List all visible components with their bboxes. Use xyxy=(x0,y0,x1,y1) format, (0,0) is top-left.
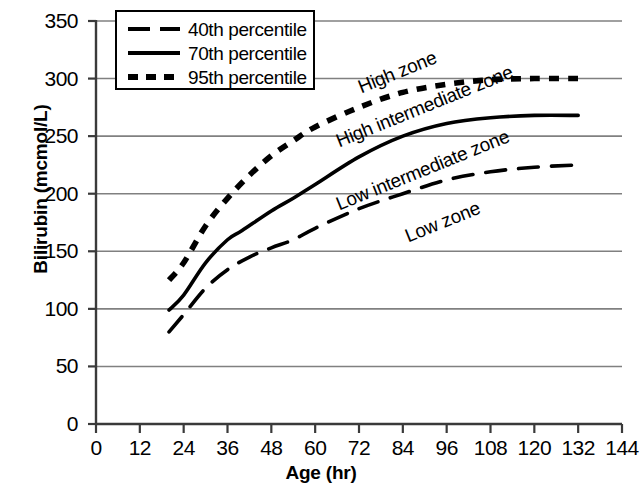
legend-swatch-dotted-icon xyxy=(126,70,182,84)
legend-swatch-dashed-icon xyxy=(126,22,182,36)
legend-item-70th: 70th percentile xyxy=(126,41,307,65)
plot-area xyxy=(0,0,642,487)
legend-item-40th: 40th percentile xyxy=(126,17,307,41)
legend-swatch-solid-icon xyxy=(126,46,182,60)
legend-label-40th: 40th percentile xyxy=(188,20,307,39)
legend-item-95th: 95th percentile xyxy=(126,65,307,89)
legend: 40th percentile 70th percentile 95th per… xyxy=(115,10,315,90)
series-curve-70th-percentile xyxy=(169,115,578,310)
legend-label-70th: 70th percentile xyxy=(188,44,307,63)
legend-label-95th: 95th percentile xyxy=(188,68,307,87)
bilirubin-nomogram-chart: 350300250200150100500 012243648607284961… xyxy=(0,0,642,487)
